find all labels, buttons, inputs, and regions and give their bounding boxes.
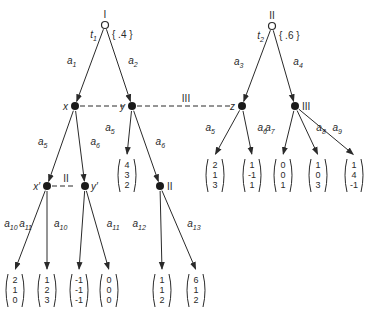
payoff-value: 1: [12, 285, 17, 295]
game-tree: a1a2a3a4a5a6a5a6a5a6a7a8a9a10a11a10a11a1…: [0, 0, 374, 311]
payoff-value: -1: [350, 180, 358, 190]
player-label: I: [104, 9, 107, 20]
payoff-value: 1: [159, 275, 164, 285]
payoff-value: 3: [44, 295, 49, 305]
node-label: z: [229, 101, 235, 112]
player-label: II: [269, 10, 275, 21]
payoff-value: 3: [212, 180, 217, 190]
edge-x-yp: [76, 111, 85, 181]
payoff-value: 0: [106, 295, 111, 305]
edge-x-xp: [49, 111, 74, 182]
node-label: y′: [90, 181, 99, 192]
edge-r1-y: [106, 29, 130, 101]
payoff-value: 2: [159, 295, 164, 305]
node-label: x: [62, 101, 69, 112]
payoff-vector: 612: [187, 274, 205, 307]
action-label: a12: [133, 218, 146, 231]
decision-node-x: [71, 102, 79, 110]
payoff-value: 0: [106, 275, 111, 285]
edge-n2-p11: [160, 191, 162, 269]
payoff-value: 1: [351, 160, 356, 170]
edge-r1-x: [77, 29, 104, 101]
payoff-vector: -1-1-1: [70, 274, 88, 307]
decision-node-y: [128, 102, 136, 110]
payoff-vector: 000: [100, 274, 118, 307]
payoff-vector: 112: [153, 274, 171, 307]
payoff-value: -1: [75, 275, 83, 285]
payoff-value: 4: [124, 160, 129, 170]
action-label: a10: [4, 218, 17, 231]
action-label: a6: [91, 136, 101, 149]
action-label: a8: [316, 122, 326, 135]
payoff-vector: 1-11: [243, 159, 261, 192]
action-label: a3: [234, 56, 244, 69]
edge-n3-p4: [283, 111, 294, 154]
action-label: a10: [54, 218, 67, 231]
payoff-value: 1: [212, 170, 217, 180]
probability-label: { .4 }: [112, 29, 133, 40]
payoff-value: 0: [280, 170, 285, 180]
payoff-vector: 103: [309, 159, 327, 192]
payoff-vector: 123: [38, 274, 56, 307]
payoff-value: 3: [124, 170, 129, 180]
node-label: y: [119, 101, 126, 112]
action-label: a13: [187, 218, 200, 231]
action-label: a4: [293, 56, 303, 69]
payoff-value: 2: [212, 160, 217, 170]
decision-node-yp: [81, 182, 89, 190]
chance-root-node: [102, 22, 109, 29]
payoff-vector: 432: [118, 159, 136, 192]
action-label: a6: [156, 136, 166, 149]
type-label: t1: [90, 29, 97, 42]
type-label: t2: [257, 30, 264, 43]
payoff-value: 4: [351, 170, 356, 180]
information-set-label: III: [182, 93, 190, 104]
payoff-value: -1: [75, 285, 83, 295]
payoff-value: 0: [106, 285, 111, 295]
edge-n2-p12: [162, 191, 196, 269]
action-label: a11: [19, 218, 32, 231]
action-label: a2: [128, 55, 138, 68]
node-label: II: [167, 181, 173, 192]
payoff-value: 1: [193, 285, 198, 295]
payoff-value: 2: [12, 275, 17, 285]
node-label: III: [302, 101, 310, 112]
payoffs-layer: 4322131-1100110314-1210123-1-1-100011261…: [6, 159, 363, 307]
edge-yp-p9: [79, 191, 85, 269]
decision-node-n3: [291, 102, 299, 110]
payoff-value: -1: [248, 170, 256, 180]
edge-z-p3: [243, 111, 252, 154]
information-set-label: II: [63, 173, 69, 184]
payoff-value: 0: [12, 295, 17, 305]
payoff-value: 6: [193, 275, 198, 285]
payoff-value: 3: [315, 180, 320, 190]
payoff-value: 0: [280, 160, 285, 170]
probability-label: { .6 }: [279, 30, 300, 41]
payoff-value: 1: [249, 180, 254, 190]
payoff-vector: 213: [206, 159, 224, 192]
payoff-vector: 14-1: [345, 159, 363, 192]
action-label: a5: [38, 136, 48, 149]
payoff-vector: 001: [274, 159, 292, 192]
payoff-value: 0: [315, 170, 320, 180]
action-label: a5: [205, 122, 215, 135]
payoff-value: 2: [44, 285, 49, 295]
information-sets-layer: [52, 106, 230, 186]
payoff-value: 1: [159, 285, 164, 295]
edge-z-p2: [215, 110, 239, 154]
payoff-value: 1: [44, 275, 49, 285]
edge-y-p1: [127, 111, 131, 154]
chance-root-node: [269, 23, 276, 30]
decision-node-z: [238, 102, 246, 110]
payoff-value: 1: [249, 160, 254, 170]
action-label: a1: [67, 55, 77, 68]
edge-n3-p5: [297, 111, 317, 155]
payoff-value: 1: [315, 160, 320, 170]
node-label: x′: [32, 181, 41, 192]
decision-node-n2: [156, 182, 164, 190]
decision-node-xp: [43, 182, 51, 190]
payoff-value: -1: [75, 295, 83, 305]
payoff-value: 2: [124, 180, 129, 190]
action-label: a5: [105, 122, 115, 135]
action-label: a9: [333, 122, 343, 135]
